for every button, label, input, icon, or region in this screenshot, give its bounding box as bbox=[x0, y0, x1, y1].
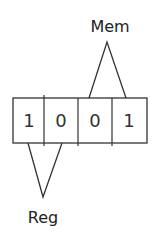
bit-0: 1 bbox=[23, 110, 34, 131]
reg-bracket-triangle bbox=[28, 143, 62, 197]
bit-register: 1 0 0 1 bbox=[13, 95, 147, 146]
bit-2: 0 bbox=[89, 110, 100, 131]
reg-label: Reg bbox=[28, 208, 58, 227]
mem-bracket-triangle bbox=[89, 42, 126, 98]
mem-label: Mem bbox=[90, 17, 129, 36]
bit-3: 1 bbox=[123, 110, 134, 131]
bit-field-diagram: Mem 1 0 0 1 Reg bbox=[0, 0, 154, 238]
bit-1: 0 bbox=[55, 110, 66, 131]
